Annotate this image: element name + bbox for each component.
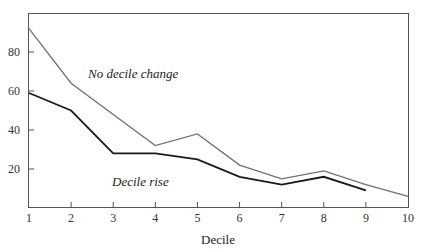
y-tick-label: 20 (8, 162, 20, 176)
y-axis: 20406080 (8, 45, 34, 176)
line-chart: 20406080 12345678910 No decile change De… (0, 0, 423, 252)
y-tick-label: 60 (8, 84, 20, 98)
x-tick-label: 6 (237, 211, 243, 225)
annotation-decile-rise: Decile rise (111, 174, 169, 189)
x-axis: 12345678910 (26, 202, 414, 225)
y-tick-label: 80 (8, 45, 20, 59)
x-tick-label: 3 (110, 211, 116, 225)
y-tick-label: 40 (8, 123, 20, 137)
series-line-decile-rise (29, 93, 366, 190)
x-tick-label: 2 (68, 211, 74, 225)
plot-frame (29, 14, 409, 208)
series-group (29, 29, 408, 197)
annotation-no-decile-change: No decile change (87, 66, 178, 81)
x-tick-label: 5 (194, 211, 200, 225)
x-tick-label: 7 (279, 211, 285, 225)
x-tick-label: 9 (363, 211, 369, 225)
x-tick-label: 10 (402, 211, 414, 225)
x-axis-title: Decile (201, 232, 235, 247)
x-tick-label: 1 (26, 211, 32, 225)
series-line-no-decile-change (29, 29, 408, 197)
x-tick-label: 8 (321, 211, 327, 225)
x-tick-label: 4 (152, 211, 158, 225)
